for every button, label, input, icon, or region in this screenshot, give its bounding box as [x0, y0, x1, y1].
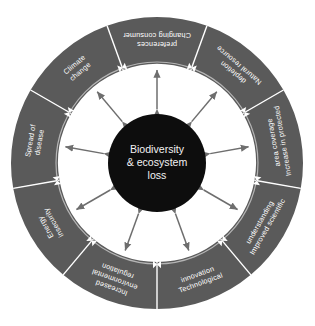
radial-arrow-improved-scientific-understanding: [204, 190, 238, 210]
center-label-line: Biodiversity: [130, 143, 185, 155]
radial-arrow-increased-environmental-regulation: [125, 214, 138, 251]
radial-arrow-climate-change: [97, 92, 122, 122]
radial-arrow-technological-innovation: [175, 214, 188, 251]
radial-arrow-natural-resource-depletion: [192, 92, 217, 122]
center-label-line: & ecosystem: [127, 156, 188, 168]
wheel-svg: Biodiversity& ecosystemloss Natural reso…: [0, 0, 315, 326]
biodiversity-driver-wheel-diagram: Biodiversity& ecosystemloss Natural reso…: [0, 0, 315, 326]
radial-arrow-energy-insecurity: [76, 190, 110, 210]
radial-arrow-spread-of-disease: [65, 147, 103, 154]
segment-label-text: preferences: [137, 40, 177, 49]
segment-label-text: Changing consumer: [123, 31, 191, 40]
center-label-line: loss: [148, 169, 167, 181]
radial-arrow-increase-in-protected-area-coverage: [210, 147, 248, 154]
